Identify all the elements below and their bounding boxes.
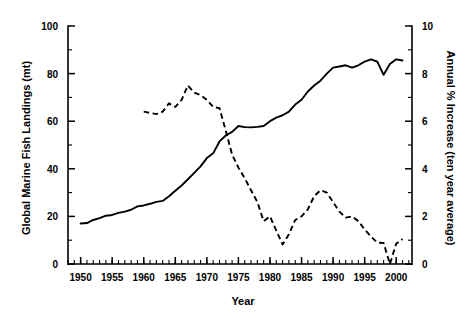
y-left-tick-label: 60 [47, 116, 59, 127]
y-right-tick-label: 2 [422, 211, 428, 222]
y-right-tick-label: 6 [422, 116, 428, 127]
x-axis-tick-labels: 1950195519601965197019751980198519901995… [69, 272, 407, 283]
y-right-tick-label: 4 [422, 164, 428, 175]
x-tick-label: 1980 [259, 272, 282, 283]
chart-background [0, 0, 472, 318]
y-left-tick-label: 20 [47, 211, 59, 222]
y-axis-left-title: Global Marine Fish Landings (mt) [20, 61, 32, 236]
dual-axis-line-chart: 1950195519601965197019751980198519901995… [0, 0, 472, 318]
y-left-tick-label: 100 [41, 21, 58, 32]
x-tick-label: 1975 [227, 272, 250, 283]
x-tick-label: 1990 [322, 272, 345, 283]
x-tick-label: 1950 [69, 272, 92, 283]
x-tick-label: 1985 [290, 272, 313, 283]
x-tick-label: 2000 [385, 272, 408, 283]
chart-figure: 1950195519601965197019751980198519901995… [0, 0, 472, 318]
y-right-tick-label: 0 [422, 259, 428, 270]
x-tick-label: 1970 [196, 272, 219, 283]
y-right-tick-label: 8 [422, 69, 428, 80]
y-right-tick-label: 10 [422, 21, 434, 32]
y-left-tick-label: 0 [52, 259, 58, 270]
x-tick-label: 1955 [101, 272, 124, 283]
y-left-tick-label: 40 [47, 164, 59, 175]
y-axis-right-title: Annual % Increase (ten year average) [445, 50, 457, 245]
x-tick-label: 1960 [133, 272, 156, 283]
y-left-tick-label: 80 [47, 69, 59, 80]
x-axis-title: Year [231, 295, 255, 307]
x-tick-label: 1995 [354, 272, 377, 283]
x-tick-label: 1965 [164, 272, 187, 283]
